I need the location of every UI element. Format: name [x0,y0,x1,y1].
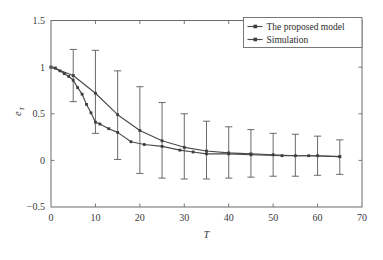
data-point-proposed-model [116,113,119,116]
error-bar-line-chart: 010203040506070−0.500.511.5TeT The propo… [0,0,383,260]
data-point-proposed-model [272,153,275,156]
x-tick-label: 40 [224,212,234,223]
legend-label: The proposed model [267,22,345,32]
data-point-simulation [143,143,146,146]
data-point-simulation [98,123,101,126]
x-tick-label: 70 [357,212,367,223]
data-point-proposed-model [72,74,75,77]
y-tick-label: 1.5 [33,15,46,26]
y-tick-label: 0 [40,155,45,166]
data-point-proposed-model [227,152,230,155]
data-point-proposed-model [183,146,186,149]
data-point-simulation [81,93,84,96]
data-point-simulation [72,79,75,82]
data-point-proposed-model [205,150,208,153]
data-point-simulation [161,145,164,148]
data-point-simulation [107,127,110,130]
x-tick-label: 0 [49,212,54,223]
data-point-simulation [116,131,119,134]
x-tick-label: 10 [90,212,100,223]
data-point-simulation [192,151,195,154]
data-point-simulation [94,121,97,124]
y-tick-label: 1 [40,62,45,73]
data-point-proposed-model [94,92,97,95]
x-tick-label: 20 [135,212,145,223]
data-point-simulation [205,152,208,155]
svg-text:e: e [12,111,23,116]
x-tick-label: 30 [179,212,189,223]
data-point-proposed-model [161,139,164,142]
x-tick-label: 50 [268,212,278,223]
data-point-simulation [76,86,79,89]
data-point-proposed-model [294,154,297,157]
legend-layer: The proposed modelSimulation [244,18,363,48]
legend-label: Simulation [267,35,309,45]
data-point-simulation [58,69,61,72]
data-point-simulation [85,103,88,106]
data-point-simulation [63,72,66,75]
legend-marker [254,25,258,29]
data-point-simulation [90,111,93,114]
data-point-proposed-model [338,155,341,158]
data-point-simulation [130,140,133,143]
chart-figure: 010203040506070−0.500.511.5TeT The propo… [0,0,383,260]
data-point-proposed-model [250,152,253,155]
y-tick-label: −0.5 [27,201,45,212]
data-point-simulation [67,75,70,78]
data-point-simulation [307,154,310,157]
data-point-proposed-model [316,154,319,157]
data-point-simulation [281,154,284,157]
y-tick-label: 0.5 [33,108,46,119]
data-point-proposed-model [138,129,141,132]
x-tick-label: 60 [313,212,323,223]
data-point-simulation [178,149,181,152]
legend-marker [254,38,258,42]
